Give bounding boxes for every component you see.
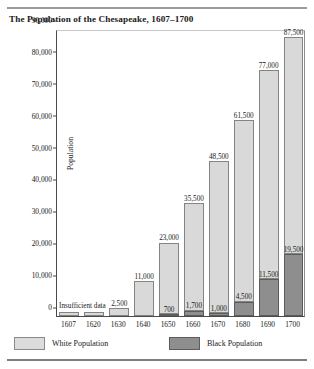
- bar-1620: [84, 312, 104, 316]
- bar-1640: 11,000: [134, 281, 154, 316]
- bar-segment-white-1630: 2,500: [109, 308, 129, 316]
- bottom-divider: [7, 359, 307, 361]
- bar-segment-white-1670: 48,500: [209, 161, 229, 312]
- legend-item-white: White Population: [14, 337, 108, 350]
- bar-1630: 2,500: [109, 308, 129, 316]
- x-tick-label-1607: 1607: [61, 320, 76, 329]
- bar-segment-black-1680: 4,500: [234, 302, 254, 316]
- bar-group: 2,50011,00023,00070035,5001,70048,5001,0…: [57, 31, 304, 316]
- x-tick-label-1650: 1650: [161, 320, 176, 329]
- legend-label-white: White Population: [52, 339, 108, 348]
- bar-segment-white-1607: [59, 312, 79, 316]
- bar-segment-white-1640: 11,000: [134, 281, 154, 316]
- bar-value-label-white-1690: 77,000: [259, 63, 279, 70]
- bar-value-label-white-1680: 61,500: [234, 113, 254, 120]
- bar-segment-white-1700: 87,500: [284, 37, 304, 254]
- legend-label-black: Black Population: [207, 339, 262, 348]
- bar-segment-white-1650: 23,000: [159, 243, 179, 314]
- x-tick-label-1680: 1680: [235, 320, 250, 329]
- y-tick-label: 80,000: [32, 47, 57, 56]
- bar-1700: 87,50019,500: [284, 37, 304, 316]
- bar-segment-white-1620: [84, 312, 104, 316]
- y-tick-label: 70,000: [32, 79, 57, 88]
- y-tick-label: 30,000: [32, 207, 57, 216]
- y-tick-label: 40,000: [32, 175, 57, 184]
- plot-area: Population 010,00020,00030,00040,00050,0…: [56, 30, 305, 317]
- bar-value-label-white-1640: 11,000: [134, 274, 154, 281]
- x-tick-label-1640: 1640: [136, 320, 151, 329]
- chart-legend: White PopulationBlack Population: [14, 337, 304, 353]
- y-tick-label: 60,000: [32, 111, 57, 120]
- x-tick-label-1660: 1660: [186, 320, 201, 329]
- x-tick-label-1620: 1620: [86, 320, 101, 329]
- bar-segment-black-1700: 19,500: [284, 254, 304, 316]
- x-tick-label-1630: 1630: [111, 320, 126, 329]
- bar-segment-black-1660: 1,700: [184, 311, 204, 316]
- bar-1607: [59, 312, 79, 316]
- bar-1650: 23,000700: [159, 243, 179, 316]
- bar-1670: 48,5001,000: [209, 161, 229, 316]
- bar-segment-white-1660: 35,500: [184, 203, 204, 311]
- bar-value-label-black-1670: 1,000: [211, 306, 227, 313]
- y-tick-label: 20,000: [32, 239, 57, 248]
- chart-figure: The Population of the Chesapeake, 1607–1…: [0, 0, 314, 369]
- bar-1680: 61,5004,500: [234, 120, 254, 316]
- x-tick-label-1690: 1690: [260, 320, 275, 329]
- bar-segment-black-1650: 700: [159, 314, 179, 316]
- bar-value-label-black-1650: 700: [164, 307, 175, 314]
- x-tick-label-1700: 1700: [285, 320, 300, 329]
- bar-value-label-white-1630: 2,500: [111, 301, 127, 308]
- bar-segment-black-1670: 1,000: [209, 313, 229, 316]
- bar-segment-white-1690: 77,000: [259, 70, 279, 279]
- y-tick-label: 90,000: [32, 16, 57, 25]
- bar-value-label-white-1660: 35,500: [184, 196, 204, 203]
- legend-swatch-black: [169, 337, 200, 350]
- bar-value-label-white-1670: 48,500: [209, 154, 229, 161]
- legend-swatch-white: [14, 337, 45, 350]
- y-tick-label: 50,000: [32, 143, 57, 152]
- x-axis-ticks: 1607162016301640165016601670168016901700: [56, 318, 305, 332]
- bar-1660: 35,5001,700: [184, 203, 204, 316]
- bar-value-label-black-1700: 19,500: [284, 247, 304, 254]
- bar-value-label-black-1660: 1,700: [186, 303, 202, 310]
- bar-value-label-black-1690: 11,500: [259, 272, 279, 279]
- y-tick-label: 10,000: [32, 271, 57, 280]
- top-divider: [7, 7, 307, 9]
- legend-item-black: Black Population: [169, 337, 262, 350]
- x-tick-label-1670: 1670: [210, 320, 225, 329]
- bar-value-label-black-1680: 4,500: [236, 294, 252, 301]
- bar-value-label-white-1650: 23,000: [159, 235, 179, 242]
- y-tick-label: 0: [48, 303, 57, 312]
- bar-1690: 77,00011,500: [259, 70, 279, 316]
- bar-value-label-white-1700: 87,500: [284, 30, 304, 37]
- insufficient-data-annotation: Insufficient data: [59, 302, 106, 310]
- bar-segment-black-1690: 11,500: [259, 279, 279, 316]
- bar-segment-white-1680: 61,500: [234, 120, 254, 302]
